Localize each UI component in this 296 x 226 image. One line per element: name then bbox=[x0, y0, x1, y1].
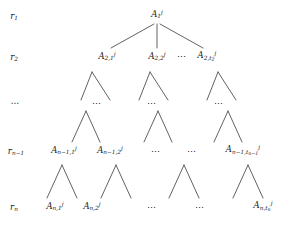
row-label-rdots: ⋯ bbox=[10, 99, 19, 108]
tree-edge bbox=[228, 111, 242, 142]
tree-edge bbox=[116, 165, 131, 198]
tree-edge bbox=[184, 165, 199, 198]
tree-edge bbox=[248, 165, 263, 198]
tree-node-nn1_t: An−1,tn−1j bbox=[226, 145, 260, 157]
tree-edge bbox=[92, 72, 110, 100]
tree-node-n2_2: A2,2j bbox=[148, 52, 165, 62]
tree-edge bbox=[101, 165, 116, 198]
tree-diagram-figure: r1r2⋯rn−1rnA1jA2,1jA2,2jA2,t2jAn−1,1jAn−… bbox=[0, 0, 296, 226]
tree-node-nn_t: An,tnj bbox=[254, 201, 273, 213]
tree-node-root: A1j bbox=[151, 10, 163, 20]
tree-node-n2_1: A2,1j bbox=[98, 52, 115, 62]
row-label-rn: rn bbox=[10, 203, 18, 213]
tree-edge bbox=[62, 165, 77, 198]
tree-edge bbox=[139, 72, 150, 100]
tree-edge bbox=[144, 111, 158, 142]
tree-node-nn_2: An,2j bbox=[83, 202, 100, 212]
tree-edge bbox=[81, 72, 92, 100]
tree-node-nn1_1: An−1,1j bbox=[51, 146, 77, 156]
tree-edge bbox=[86, 111, 100, 142]
tree-node-nn1_2: An−1,2j bbox=[97, 146, 123, 156]
tree-edge bbox=[111, 24, 154, 48]
ellipsis-e_rown1_a: ⋯ bbox=[151, 148, 161, 157]
tree-edge bbox=[72, 111, 86, 142]
tree-edge bbox=[47, 165, 62, 198]
tree-edge bbox=[160, 24, 203, 48]
tree-edge bbox=[207, 72, 218, 100]
tree-edge bbox=[150, 72, 168, 100]
ellipsis-e_lvl3_b: ⋯ bbox=[147, 100, 157, 109]
tree-edge bbox=[218, 72, 236, 100]
ellipsis-e_row2_mid: ⋯ bbox=[177, 53, 187, 62]
ellipsis-e_lvl3_a: ⋯ bbox=[92, 100, 102, 109]
ellipsis-e_lvl3_c: ⋯ bbox=[214, 100, 224, 109]
tree-node-nn_1: An,1j bbox=[46, 202, 63, 212]
tree-edge bbox=[214, 111, 228, 142]
ellipsis-e_rown_b: ⋯ bbox=[195, 204, 205, 213]
row-label-rn1: rn−1 bbox=[8, 147, 24, 157]
row-label-r2: r2 bbox=[10, 53, 18, 63]
ellipsis-e_rown_a: ⋯ bbox=[147, 204, 157, 213]
tree-edge bbox=[158, 111, 172, 142]
tree-edge-layer bbox=[0, 0, 296, 226]
row-label-r1: r1 bbox=[10, 12, 18, 22]
tree-edge bbox=[169, 165, 184, 198]
ellipsis-e_rown1_b: ⋯ bbox=[187, 148, 197, 157]
tree-edge bbox=[233, 165, 248, 198]
tree-node-n2_t2: A2,t2j bbox=[198, 51, 217, 63]
